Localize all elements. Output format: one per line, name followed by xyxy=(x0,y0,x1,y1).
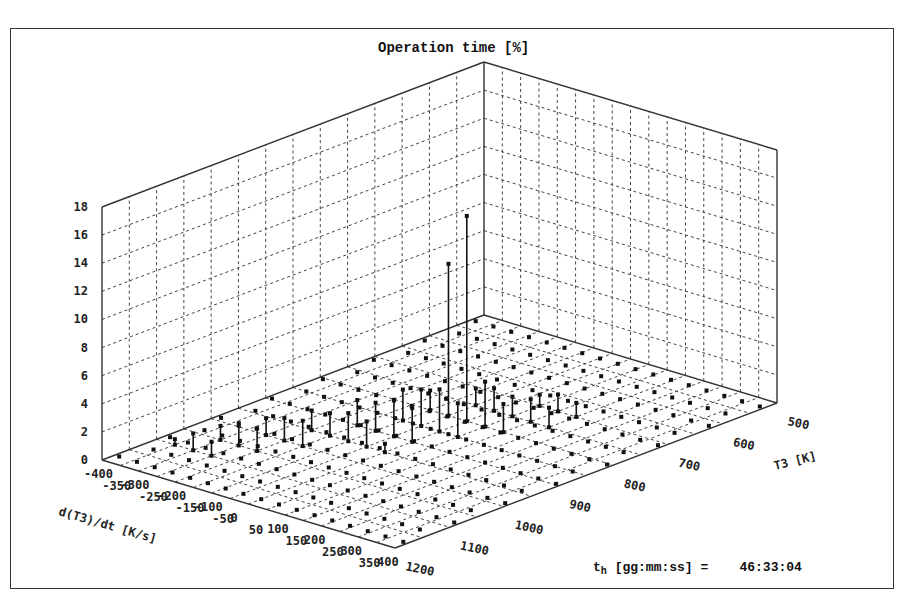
floor-marker xyxy=(565,381,569,385)
floor-marker xyxy=(416,492,420,496)
floor-marker xyxy=(548,394,552,398)
data-base-marker xyxy=(346,439,350,443)
data-point-marker xyxy=(365,419,369,423)
z-tick-label: 16 xyxy=(74,228,88,242)
floor-marker xyxy=(313,513,317,517)
y-tick-label: 500 xyxy=(786,414,810,432)
floor-marker xyxy=(618,397,622,401)
data-base-marker xyxy=(255,449,259,453)
z-tick-label: 6 xyxy=(81,369,88,383)
floor-marker xyxy=(496,395,500,399)
floor-marker xyxy=(655,426,659,430)
floor-marker xyxy=(616,362,620,366)
floor-marker xyxy=(651,373,655,377)
y-axis-label: T3 [K] xyxy=(772,449,817,473)
data-point-marker xyxy=(210,440,214,444)
floor-marker xyxy=(425,374,429,378)
floor-marker xyxy=(477,372,481,376)
floor-marker xyxy=(564,364,568,368)
floor-marker xyxy=(635,385,639,389)
left-wall-gridline xyxy=(102,174,484,319)
floor-marker xyxy=(532,406,536,410)
floor-marker xyxy=(309,460,313,464)
floor-marker xyxy=(272,432,276,436)
floor-marker xyxy=(378,446,382,450)
floor-marker xyxy=(637,420,641,424)
footer-label-sub: h xyxy=(601,566,607,577)
data-base-marker xyxy=(410,440,414,444)
data-base-marker xyxy=(310,428,314,432)
floor-marker xyxy=(170,471,174,475)
data-point-marker xyxy=(282,416,286,420)
floor-marker xyxy=(380,482,384,486)
floor-marker xyxy=(443,379,447,383)
floor-marker xyxy=(553,464,557,468)
floor-marker xyxy=(515,418,519,422)
floor-marker xyxy=(707,424,711,428)
data-base-marker xyxy=(446,414,450,418)
floor-marker xyxy=(423,339,427,343)
floor-marker xyxy=(348,524,352,528)
data-point-marker xyxy=(492,386,496,390)
floor-marker xyxy=(587,457,591,461)
floor-marker xyxy=(580,351,584,355)
floor-marker xyxy=(551,429,555,433)
z-tick-label: 10 xyxy=(74,312,88,326)
floor-marker xyxy=(407,369,411,373)
floor-gridline xyxy=(457,325,750,413)
floor-marker xyxy=(448,450,452,454)
floor-marker xyxy=(135,460,139,464)
floor-marker xyxy=(358,406,362,410)
floor-marker xyxy=(347,506,351,510)
data-point-marker xyxy=(410,406,414,410)
floor-marker xyxy=(527,335,531,339)
data-base-marker xyxy=(401,419,405,423)
floor-marker xyxy=(513,383,517,387)
floor-marker xyxy=(305,407,309,411)
floor-marker xyxy=(366,529,370,533)
floor-marker xyxy=(484,478,488,482)
floor-marker xyxy=(622,450,626,454)
floor-marker xyxy=(671,413,675,417)
data-base-marker xyxy=(501,430,505,434)
floor-marker xyxy=(503,501,507,505)
data-base-marker xyxy=(383,450,387,454)
floor-marker xyxy=(288,402,292,406)
floor-marker xyxy=(424,356,428,360)
floor-marker xyxy=(599,374,603,378)
floor-marker xyxy=(670,396,674,400)
floor-marker xyxy=(474,319,478,323)
floor-marker xyxy=(494,360,498,364)
z-tick-label: 14 xyxy=(74,256,88,270)
floor-marker xyxy=(722,394,726,398)
data-point-marker xyxy=(556,393,560,397)
y-tick-label: 700 xyxy=(677,456,701,474)
floor-marker xyxy=(372,358,376,362)
floor-marker xyxy=(483,461,487,465)
data-base-marker xyxy=(392,434,396,438)
floor-marker xyxy=(431,462,435,466)
floor-marker xyxy=(434,515,438,519)
floor-marker xyxy=(585,422,589,426)
right-wall-gridline xyxy=(484,118,777,206)
floor-marker xyxy=(469,508,473,512)
data-base-marker xyxy=(538,404,542,408)
floor-marker xyxy=(545,341,549,345)
floor-marker xyxy=(705,389,709,393)
floor-marker xyxy=(619,415,623,419)
data-point-marker xyxy=(255,426,259,430)
floor-marker xyxy=(365,512,369,516)
z-tick-label: 4 xyxy=(81,397,88,411)
data-base-marker xyxy=(483,425,487,429)
data-point-marker xyxy=(218,424,222,428)
floor-marker xyxy=(520,489,524,493)
floor-marker xyxy=(341,418,345,422)
floor-marker xyxy=(323,413,327,417)
floor-marker xyxy=(433,498,437,502)
floor-marker xyxy=(409,386,413,390)
floor-marker xyxy=(475,337,479,341)
data-point-marker xyxy=(428,388,432,392)
floor-marker xyxy=(549,411,553,415)
floor-gridline xyxy=(211,419,504,507)
floor-marker xyxy=(602,410,606,414)
